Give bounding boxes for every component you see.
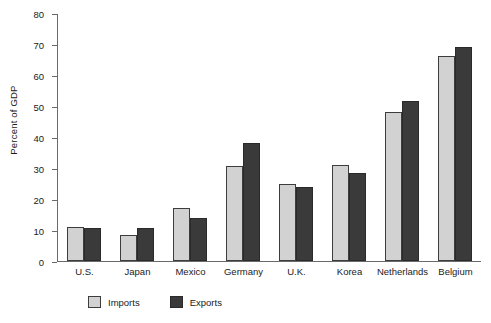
bar-exports	[243, 143, 260, 261]
x-axis-label: Mexico	[164, 266, 217, 277]
bar-imports	[226, 166, 243, 261]
bar-imports	[385, 112, 402, 261]
y-tick: 80	[52, 14, 57, 15]
bar-imports	[120, 235, 137, 261]
legend-item-imports: Imports	[88, 296, 140, 308]
legend-item-exports: Exports	[170, 296, 222, 308]
bar-imports	[332, 165, 349, 261]
y-tick: 60	[52, 76, 57, 77]
x-axis-label: Korea	[323, 266, 376, 277]
bar-groups	[58, 14, 481, 261]
y-tick: 40	[52, 138, 57, 139]
y-tick: 10	[52, 231, 57, 232]
bar-imports	[279, 184, 296, 262]
bar-group	[270, 14, 323, 261]
y-tick: 50	[52, 107, 57, 108]
bar-group	[375, 14, 428, 261]
bar-group	[111, 14, 164, 261]
bar-imports	[173, 208, 190, 261]
y-tick: 20	[52, 200, 57, 201]
y-tick: 0	[52, 262, 57, 263]
bar-exports	[190, 218, 207, 261]
bar-group	[428, 14, 481, 261]
chart-legend: ImportsExports	[88, 296, 222, 308]
bar-group	[217, 14, 270, 261]
bar-exports	[455, 47, 472, 261]
x-axis-label: Japan	[111, 266, 164, 277]
legend-swatch	[88, 296, 101, 308]
x-axis-label: Germany	[217, 266, 270, 277]
y-tick-label: 30	[33, 164, 44, 175]
plot-area: 01020304050607080	[57, 14, 481, 262]
bar-imports	[438, 56, 455, 261]
y-tick-label: 80	[33, 9, 44, 20]
y-tick-label: 10	[33, 226, 44, 237]
y-tick-label: 40	[33, 133, 44, 144]
x-axis-labels: U.S.JapanMexicoGermanyU.K.KoreaNetherlan…	[58, 266, 482, 277]
x-axis-label: Netherlands	[376, 266, 429, 277]
y-axis-title: Percent of GDP	[8, 0, 19, 50]
legend-label: Imports	[108, 297, 140, 308]
bar-exports	[296, 187, 313, 261]
y-tick: 70	[52, 45, 57, 46]
x-axis-label: U.K.	[270, 266, 323, 277]
y-tick-label: 60	[33, 71, 44, 82]
bar-exports	[349, 173, 366, 261]
bar-exports	[137, 228, 154, 261]
bar-exports	[84, 228, 101, 261]
bar-chart: Percent of GDP 01020304050607080 U.S.Jap…	[0, 0, 491, 323]
x-axis-label: U.S.	[58, 266, 111, 277]
bar-group	[322, 14, 375, 261]
y-tick-label: 20	[33, 195, 44, 206]
x-axis-line	[57, 261, 481, 262]
bar-group	[164, 14, 217, 261]
legend-label: Exports	[190, 297, 222, 308]
bar-exports	[402, 101, 419, 261]
y-tick-label: 70	[33, 40, 44, 51]
bar-group	[58, 14, 111, 261]
y-tick: 30	[52, 169, 57, 170]
y-tick-label: 0	[39, 257, 44, 268]
x-axis-label: Belgium	[429, 266, 482, 277]
bar-imports	[67, 227, 84, 261]
legend-swatch	[170, 296, 183, 308]
y-tick-label: 50	[33, 102, 44, 113]
